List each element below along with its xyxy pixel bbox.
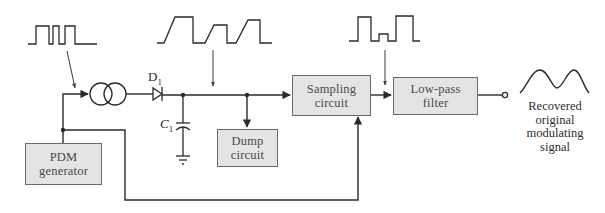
ground-icon xyxy=(176,156,190,164)
capacitor-label: C1 xyxy=(160,116,173,134)
low-pass-filter-block: Low-pass filter xyxy=(393,77,478,115)
pdm-waveform-pointer-arrow xyxy=(67,51,75,88)
capacitor-icon xyxy=(176,95,190,156)
sampling-circuit-label-line1: Sampling xyxy=(307,82,357,96)
diode-label: D1 xyxy=(148,69,162,87)
dump-circuit-label-line1: Dump xyxy=(231,134,263,148)
pdm-to-source-wire xyxy=(63,94,88,143)
low-pass-filter-label-line2: filter xyxy=(423,96,449,110)
pdm-generator-block: PDM generator xyxy=(25,143,102,185)
pdm-input-waveform xyxy=(28,26,97,44)
dump-circuit-block: Dump circuit xyxy=(217,129,278,167)
recovered-signal-waveform xyxy=(520,70,589,93)
current-source-icon xyxy=(90,83,126,105)
dump-circuit-label-line2: circuit xyxy=(231,148,264,162)
sampling-circuit-label-line2: circuit xyxy=(315,96,348,110)
output-terminal-icon xyxy=(502,92,507,97)
low-pass-filter-label-line1: Low-pass xyxy=(410,82,460,96)
sampling-circuit-block: Sampling circuit xyxy=(292,75,371,116)
diode-icon xyxy=(153,87,162,101)
ramp-waveform xyxy=(157,17,272,43)
sampled-waveform xyxy=(349,16,420,41)
pdm-generator-label-line2: generator xyxy=(39,164,88,178)
pdm-to-sampling-wire xyxy=(63,117,358,200)
recovered-signal-caption: Recovered original modulating signal xyxy=(513,100,597,154)
pdm-generator-label-line1: PDM xyxy=(50,150,78,164)
